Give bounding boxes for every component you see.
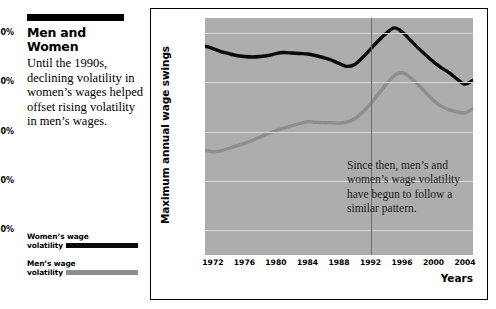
figure-root: Men and Women Until the 1990s, declining…	[0, 0, 496, 309]
legend-label-women-line2: volatility	[27, 241, 63, 250]
series-line-men	[205, 73, 473, 152]
legend-item-women: Women’s wage volatility	[27, 232, 147, 250]
y-tick-30%: 30%	[0, 127, 14, 136]
x-tick-2004: 2004	[448, 258, 482, 267]
legend-label-men-line1: Men’s wage	[27, 259, 147, 268]
x-tick-1972: 1972	[196, 258, 230, 267]
x-tick-1988: 1988	[322, 258, 356, 267]
page-title: Men and Women	[27, 26, 139, 54]
gridline-10%	[205, 230, 473, 231]
chart-legend: Women’s wage volatility Men’s wage volat…	[27, 232, 147, 286]
y-axis-label: Maximum annual wage swings	[156, 30, 174, 240]
y-tick-40%: 40%	[0, 77, 14, 86]
x-tick-2000: 2000	[417, 258, 451, 267]
x-axis-label: Years	[418, 272, 473, 284]
vertical-marker-1992	[371, 18, 372, 255]
gridline-50%	[205, 33, 473, 34]
chart-annotation: Since then, men’s and women’s wage volat…	[347, 158, 469, 216]
gridline-30%	[205, 132, 473, 133]
caption-deck: Until the 1990s, declining volatility in…	[27, 56, 145, 129]
y-tick-50%: 50%	[0, 28, 14, 37]
x-tick-1976: 1976	[227, 258, 261, 267]
series-line-women	[205, 28, 473, 84]
gridline-40%	[205, 82, 473, 83]
rule-bar	[27, 14, 124, 21]
legend-swatch-women	[66, 243, 138, 248]
x-tick-1984: 1984	[291, 258, 325, 267]
x-tick-1992: 1992	[354, 258, 388, 267]
legend-item-men: Men’s wage volatility	[27, 259, 147, 277]
y-axis-label-text: Maximum annual wage swings	[159, 46, 171, 224]
x-tick-1996: 1996	[385, 258, 419, 267]
caption-panel: Men and Women Until the 1990s, declining…	[0, 0, 150, 309]
legend-swatch-men	[66, 270, 138, 275]
x-tick-1980: 1980	[259, 258, 293, 267]
series-lines	[205, 18, 473, 255]
legend-label-women-line1: Women’s wage	[27, 232, 147, 241]
legend-label-men-line2: volatility	[27, 268, 63, 277]
y-tick-10%: 10%	[0, 225, 14, 234]
y-tick-20%: 20%	[0, 176, 14, 185]
plot-area	[205, 18, 473, 255]
